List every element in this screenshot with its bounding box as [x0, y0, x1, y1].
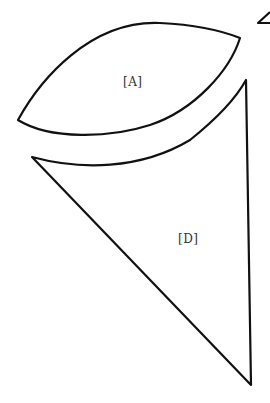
partial-piece-shape	[258, 12, 270, 23]
puzzle-diagram	[0, 0, 270, 403]
piece-d-label: [D]	[178, 232, 198, 246]
piece-a-label: [A]	[123, 75, 143, 89]
piece-d-shape	[32, 80, 251, 385]
